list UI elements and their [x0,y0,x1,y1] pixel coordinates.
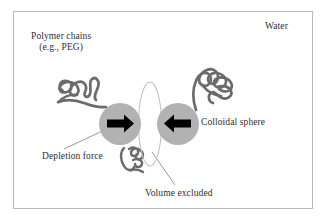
label-colloidal-sphere: Colloidal sphere [201,117,265,128]
label-polymer-chains-line1: Polymer chains [31,31,91,41]
label-polymer-chains: Polymer chains (e.g., PEG) [31,31,91,53]
polymer-coil-upper-left-icon [58,78,106,107]
volume-excluded-leader-line [152,152,175,185]
polymer-coil-lower-center-icon [121,148,143,172]
label-depletion-force: Depletion force [42,151,103,162]
figure-root: Water Polymer chains (e.g., PEG) Colloid… [0,0,330,219]
label-polymer-chains-line2: (e.g., PEG) [31,42,91,53]
label-water: Water [265,21,288,32]
label-volume-excluded: Volume excluded [145,188,213,199]
polymer-coil-upper-right-icon [193,69,231,110]
